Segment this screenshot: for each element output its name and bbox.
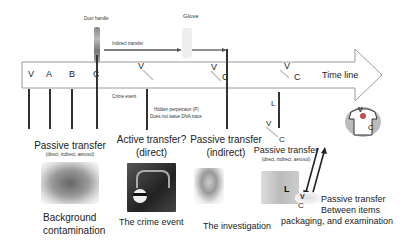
shirt-icon <box>345 107 381 137</box>
investigation-line <box>226 49 228 129</box>
no-dna-label: Does not leave DNA trace <box>150 115 202 120</box>
stage4-sub: (direct, indirect, aerosol) <box>252 158 320 163</box>
investigation-v-label: V <box>211 63 217 72</box>
indirect-transfer-label: Indirect transfer <box>112 42 143 47</box>
tick-c <box>96 55 98 129</box>
stage3-title: Passive transfer <box>186 135 266 145</box>
bag-v-label: V <box>300 193 305 200</box>
tick-a <box>49 89 51 129</box>
timeline-label: Time line <box>322 71 358 80</box>
crime-v-label: V <box>138 62 144 71</box>
tick-b <box>71 89 73 129</box>
lab-image: L <box>261 171 299 204</box>
hidden-perpetrator-label: Hidden perpetrator (P) <box>154 108 199 113</box>
door-handle-label: Door handle <box>84 17 109 22</box>
tick-v <box>28 89 30 129</box>
timeline-letter-a: A <box>46 70 52 79</box>
timeline-letter-v: V <box>28 70 34 79</box>
later-v-label: V <box>284 62 290 71</box>
later-c-label: C <box>294 73 301 82</box>
timeline-letter-b: B <box>69 70 75 79</box>
lab-image-letter: L <box>284 185 290 194</box>
stage1-caption-2: contamination <box>43 226 105 236</box>
bag-c-label: C <box>298 202 304 210</box>
lab-l-label: L <box>271 100 275 108</box>
stage3-caption: The investigation <box>203 222 271 231</box>
items-caption-2: Between items <box>321 206 380 215</box>
crime-event-line <box>146 89 148 130</box>
stage4-title: Passive transfer <box>252 146 320 155</box>
stage1-caption-1: Background <box>43 213 96 223</box>
burglar-image <box>127 163 176 212</box>
stage1-title: Passive transfer <box>30 141 110 151</box>
crowd-image <box>41 162 99 204</box>
investigator-image <box>194 168 224 204</box>
glove-icon <box>182 28 192 58</box>
glove-label: Glove <box>183 13 199 19</box>
stage1-sub: (direct, indirect, aerosol) <box>30 153 110 158</box>
items-caption-1: Passive transfer <box>321 195 386 204</box>
shirt-c-label: C <box>368 124 374 132</box>
stage2-sub: (direct) <box>114 148 189 158</box>
item-v-label: V <box>266 120 271 128</box>
stage2-title: Active transfer? <box>114 135 189 145</box>
item-c-label: C <box>279 136 285 144</box>
lab-line <box>278 92 280 128</box>
items-caption-3: packaging, and examination <box>281 217 393 226</box>
stage2-caption: The crime event <box>119 218 184 227</box>
shirt-v-label: V <box>358 106 363 113</box>
crime-event-label: Crime event <box>112 95 136 100</box>
